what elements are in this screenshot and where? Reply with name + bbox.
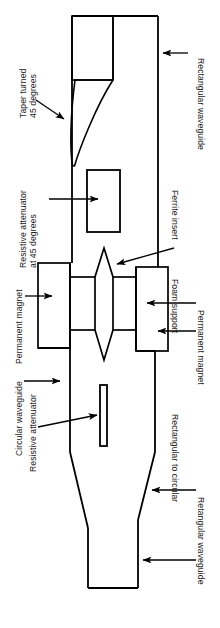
label-taper-turned-45: Taper turned 45 degrees [18,69,38,118]
resistive-attenuator-slab-part [100,385,107,446]
waveguide-body-outline [72,16,158,267]
label-resistive-attenuator-45: Resistive attenuator at 45 degrees [18,190,38,268]
label-retangular-waveguide-bottom: Retangular waveguide [196,497,206,585]
permanent-magnet-right-block-part [136,267,168,351]
leader-ferrite-insert [117,248,174,264]
permanent-magnet-left-block-part [38,263,70,348]
ferrite-insert-part [95,248,113,360]
label-circular-waveguide: Circular waveguide [14,381,24,456]
foam-support-part [70,277,136,330]
resistive-attenuator-45-card-part [87,170,120,232]
retangular-waveguide-bottom-part [88,528,138,588]
label-permanent-magnet-left: Permanent magnet [14,289,24,364]
rectangular-waveguide-top-part [72,16,113,80]
taper-turned-45-part [71,80,113,166]
circular-waveguide-body-part [38,348,155,452]
rectangular-to-circular-transition-part [70,452,155,534]
label-resistive-attenuator: Resistive attenuator [28,394,38,472]
leader-taper-turned [36,100,64,119]
label-rectangular-to-circular: Rectangular to circular [170,414,180,502]
waveguide-isolator-diagram: Taper turned 45 degrees Resistive attenu… [0,0,220,628]
label-foam-support: Foam support [170,279,180,333]
leader-resistive-attenuator [38,415,97,427]
label-ferrite-insert: Ferrite insert [170,190,180,240]
label-permanent-magnet-right: Permanent magnet [196,310,206,385]
label-rectangular-waveguide-top: Rectangular waveguide [196,58,206,150]
